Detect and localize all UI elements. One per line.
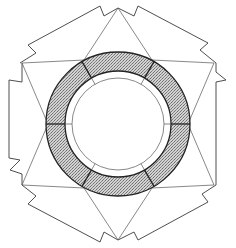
diagram-svg [0, 0, 236, 248]
inner-spokes [65, 78, 171, 170]
hexagonal-ring-diagram: Line drawing of a hexagonal ring structu… [0, 0, 236, 248]
edge-right [216, 63, 226, 185]
outer-zigzag-boundary [9, 6, 226, 242]
ring-inner-edge [65, 71, 171, 177]
edge-left [9, 63, 22, 185]
innermost-circle [72, 78, 164, 170]
